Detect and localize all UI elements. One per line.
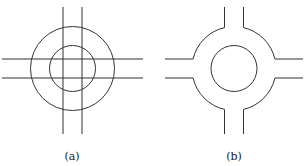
ring-arc-top-right: [244, 7, 304, 59]
figure-b: [165, 7, 303, 134]
ring-arc-top-left: [165, 7, 225, 59]
island-circle: [211, 46, 257, 92]
figure-a: [2, 7, 143, 134]
ring-arc-bottom-left: [165, 78, 225, 134]
figure-label-b: (b): [226, 150, 242, 163]
ring-arc-bottom-right: [244, 78, 304, 134]
outer-circle: [31, 27, 115, 111]
diagram-canvas: [0, 0, 307, 166]
inner-circle: [50, 46, 96, 92]
figure-label-a: (a): [64, 150, 79, 163]
